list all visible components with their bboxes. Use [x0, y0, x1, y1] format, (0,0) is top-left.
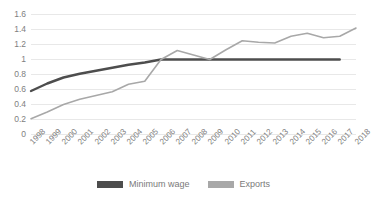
legend-swatch-icon: [97, 181, 123, 188]
series-lines: [31, 28, 356, 119]
y-axis-tick-label: 0.4: [2, 100, 26, 109]
y-axis-tick-label: 1.2: [2, 40, 26, 49]
legend-label: Minimum wage: [129, 179, 190, 189]
y-axis-tick-label: 0.6: [2, 85, 26, 94]
legend-item-exports[interactable]: Exports: [208, 179, 271, 189]
y-axis-tick-label: 0.2: [2, 115, 26, 124]
legend-swatch-icon: [208, 181, 234, 188]
y-axis-tick-label: 1: [2, 55, 26, 64]
y-axis-tick-label: 0.8: [2, 70, 26, 79]
series-line-minimum-wage: [31, 60, 340, 92]
chart-legend: Minimum wageExports: [0, 176, 367, 192]
y-axis-tick-label: 1.6: [2, 10, 26, 19]
y-axis-tick-label: 0: [2, 130, 26, 139]
y-axis-tick-label: 1.4: [2, 25, 26, 34]
legend-item-minimum-wage[interactable]: Minimum wage: [97, 179, 190, 189]
legend-label: Exports: [240, 179, 271, 189]
